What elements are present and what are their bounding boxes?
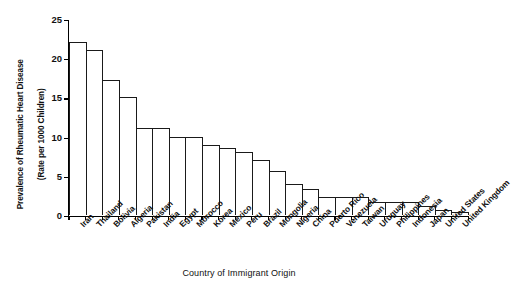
y-tick-mark	[64, 216, 69, 217]
bar	[69, 42, 87, 215]
y-tick-mark	[64, 177, 69, 178]
bar	[119, 97, 137, 215]
x-axis-category-labels: IranThailandBoliviaAlgeriaPakistanIndiaE…	[69, 220, 468, 268]
y-tick-mark	[64, 98, 69, 99]
y-axis-title-line-1: Prevalence of Rheumatic Heart Disease	[15, 29, 26, 239]
bar-series	[69, 20, 468, 215]
y-tick-mark	[64, 20, 69, 21]
y-tick-label: 25	[42, 14, 62, 26]
y-tick-mark	[64, 138, 69, 139]
bar	[136, 128, 154, 215]
y-tick-label: 15	[42, 92, 62, 104]
y-tick-label: 0	[42, 210, 62, 222]
x-axis-title: Country of Immigrant Origin	[0, 268, 478, 278]
plot-area: 0510152025	[68, 20, 468, 216]
y-tick-label: 20	[42, 53, 62, 65]
bar	[102, 80, 120, 215]
y-tick-label: 5	[42, 171, 62, 183]
bar	[86, 50, 104, 215]
bar	[252, 160, 270, 215]
y-tick-mark	[64, 59, 69, 60]
y-tick-label: 10	[42, 132, 62, 144]
bar	[185, 137, 203, 215]
